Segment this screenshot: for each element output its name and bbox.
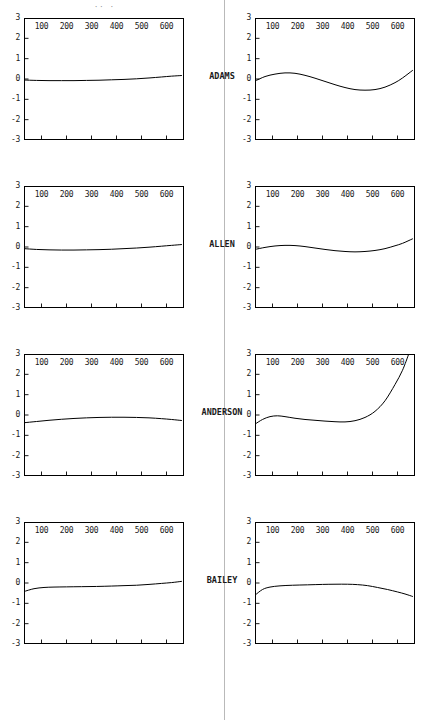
- y-tick-label: 3: [246, 14, 251, 22]
- x-tick-label: 500: [135, 359, 149, 367]
- series-line: [24, 417, 182, 423]
- y-tick-label: -1: [11, 599, 20, 607]
- y-tick-label: -3: [11, 472, 20, 480]
- y-tick-label: 3: [246, 182, 251, 190]
- y-tick-label: 1: [246, 55, 251, 63]
- y-tick-label: 1: [15, 223, 20, 231]
- y-tick-label: -2: [11, 284, 20, 292]
- x-tick-label: 100: [35, 359, 49, 367]
- y-tick-label: 0: [15, 579, 20, 587]
- x-tick-label: 600: [160, 359, 174, 367]
- y-tick-label: 3: [246, 518, 251, 526]
- series-line: [255, 584, 413, 596]
- x-tick-label: 300: [316, 23, 330, 31]
- row-label: ANDERSON: [189, 408, 255, 417]
- series-line: [24, 581, 182, 591]
- y-tick-label: -1: [242, 599, 251, 607]
- x-tick-label: 500: [366, 23, 380, 31]
- x-tick-label: 600: [391, 23, 405, 31]
- x-tick-label: 300: [316, 359, 330, 367]
- y-tick-label: 1: [246, 559, 251, 567]
- plot-canvas: [255, 186, 415, 308]
- y-tick-label: 2: [15, 370, 20, 378]
- y-tick-label: -1: [242, 431, 251, 439]
- x-tick-label: 100: [35, 191, 49, 199]
- x-tick-label: 400: [110, 359, 124, 367]
- x-tick-label: 200: [60, 359, 74, 367]
- plot-canvas: [255, 354, 415, 476]
- x-tick-label: 500: [135, 23, 149, 31]
- x-tick-label: 300: [85, 527, 99, 535]
- x-tick-label: 400: [341, 359, 355, 367]
- x-tick-label: 300: [85, 359, 99, 367]
- x-tick-label: 400: [110, 23, 124, 31]
- x-tick-label: 600: [160, 23, 174, 31]
- chart-page: ·· · 3210-1-2-31002003004005006003210-1-…: [0, 0, 438, 720]
- x-tick-label: 500: [366, 359, 380, 367]
- series-line: [255, 70, 413, 90]
- y-tick-label: -1: [11, 95, 20, 103]
- x-tick-label: 200: [291, 23, 305, 31]
- x-tick-label: 200: [291, 191, 305, 199]
- x-tick-label: 500: [366, 191, 380, 199]
- x-tick-label: 200: [60, 527, 74, 535]
- y-tick-label: 3: [15, 14, 20, 22]
- y-tick-label: -1: [242, 263, 251, 271]
- x-tick-label: 500: [366, 527, 380, 535]
- y-tick-label: -2: [11, 116, 20, 124]
- x-tick-label: 200: [291, 359, 305, 367]
- y-tick-label: 2: [15, 538, 20, 546]
- x-tick-label: 100: [35, 23, 49, 31]
- x-tick-label: 100: [35, 527, 49, 535]
- x-tick-label: 200: [291, 527, 305, 535]
- panel-row: 3210-1-2-31002003004005006003210-1-2-310…: [0, 0, 438, 168]
- x-tick-label: 600: [391, 191, 405, 199]
- x-tick-label: 400: [110, 191, 124, 199]
- row-label: ALLEN: [189, 240, 255, 249]
- panel-rows-container: 3210-1-2-31002003004005006003210-1-2-310…: [0, 0, 438, 672]
- series-line: [24, 245, 182, 251]
- y-tick-label: -2: [242, 284, 251, 292]
- plot-canvas: [255, 18, 415, 140]
- y-tick-label: 0: [15, 243, 20, 251]
- x-tick-label: 400: [341, 527, 355, 535]
- y-tick-label: -3: [11, 304, 20, 312]
- x-tick-label: 500: [135, 527, 149, 535]
- y-tick-label: -3: [242, 640, 251, 648]
- y-tick-label: 0: [15, 75, 20, 83]
- x-tick-label: 300: [85, 191, 99, 199]
- row-label: BAILEY: [189, 576, 255, 585]
- y-tick-label: -1: [11, 431, 20, 439]
- panel-row: 3210-1-2-31002003004005006003210-1-2-310…: [0, 168, 438, 336]
- y-tick-label: -1: [242, 95, 251, 103]
- y-tick-label: 1: [15, 391, 20, 399]
- y-tick-label: -3: [11, 136, 20, 144]
- x-tick-label: 400: [110, 527, 124, 535]
- panel-row: 3210-1-2-31002003004005006003210-1-2-310…: [0, 336, 438, 504]
- y-tick-label: -2: [242, 452, 251, 460]
- x-tick-label: 100: [266, 527, 280, 535]
- series-line: [255, 239, 413, 252]
- x-tick-label: 200: [60, 23, 74, 31]
- y-tick-label: 1: [15, 55, 20, 63]
- y-tick-label: -2: [11, 620, 20, 628]
- y-tick-label: -3: [11, 640, 20, 648]
- y-tick-label: 2: [246, 202, 251, 210]
- x-tick-label: 400: [341, 23, 355, 31]
- plot-canvas: [24, 18, 184, 140]
- y-tick-label: -2: [242, 116, 251, 124]
- y-tick-label: 0: [15, 411, 20, 419]
- x-tick-label: 300: [85, 23, 99, 31]
- y-tick-label: 2: [15, 202, 20, 210]
- y-tick-label: 2: [15, 34, 20, 42]
- x-tick-label: 600: [160, 191, 174, 199]
- x-tick-label: 300: [316, 191, 330, 199]
- row-label: ADAMS: [189, 72, 255, 81]
- y-tick-label: 3: [246, 350, 251, 358]
- x-tick-label: 600: [160, 527, 174, 535]
- y-tick-label: 3: [15, 350, 20, 358]
- plot-canvas: [24, 186, 184, 308]
- y-tick-label: 2: [246, 538, 251, 546]
- y-tick-label: -2: [242, 620, 251, 628]
- plot-canvas: [24, 354, 184, 476]
